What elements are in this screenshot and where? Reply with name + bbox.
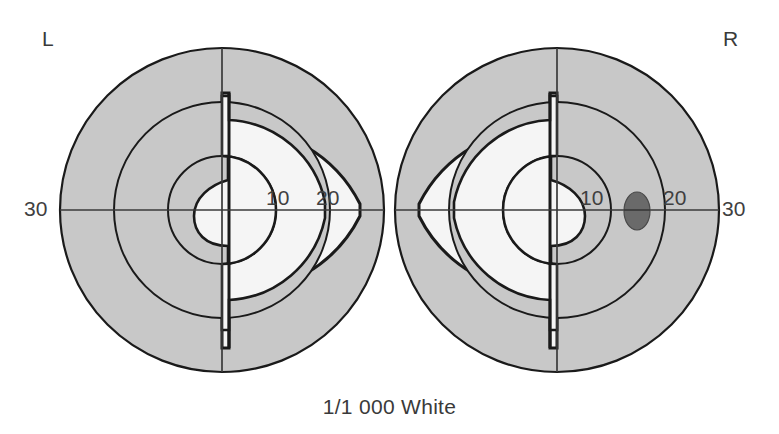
- left-tick-20: 20: [316, 186, 339, 209]
- visual-field-svg: 10 20 30 10 20 30: [0, 0, 779, 434]
- left-eye-plot: 10 20 30: [24, 48, 384, 372]
- left-tick-10: 10: [266, 186, 289, 209]
- right-eye-label: R: [723, 27, 739, 51]
- right-tick-20: 20: [663, 186, 686, 209]
- right-tick-30: 30: [722, 197, 745, 220]
- blind-spot: [624, 192, 650, 230]
- stimulus-caption: 1/1 000 White: [0, 395, 779, 419]
- left-tick-30: 30: [24, 197, 47, 220]
- left-eye-label: L: [42, 27, 54, 51]
- right-tick-10: 10: [580, 186, 603, 209]
- perimetry-chart: 10 20 30 10 20 30 L R 1/1 000 Whit: [0, 0, 779, 434]
- right-eye-plot: [395, 48, 719, 372]
